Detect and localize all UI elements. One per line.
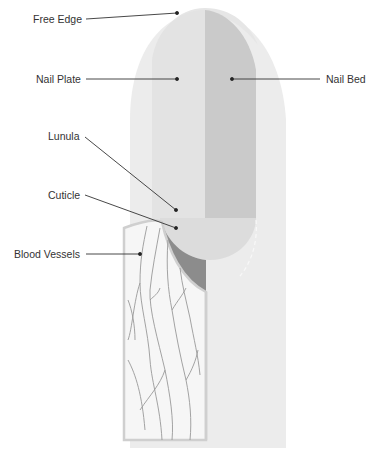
label-blood-vessels: Blood Vessels [14, 248, 80, 260]
label-cuticle: Cuticle [48, 189, 80, 201]
label-free-edge: Free Edge [33, 13, 82, 25]
label-nail-plate: Nail Plate [36, 73, 81, 85]
label-lunula: Lunula [48, 130, 80, 142]
label-nail-bed: Nail Bed [326, 73, 366, 85]
nail-illustration [0, 0, 374, 454]
